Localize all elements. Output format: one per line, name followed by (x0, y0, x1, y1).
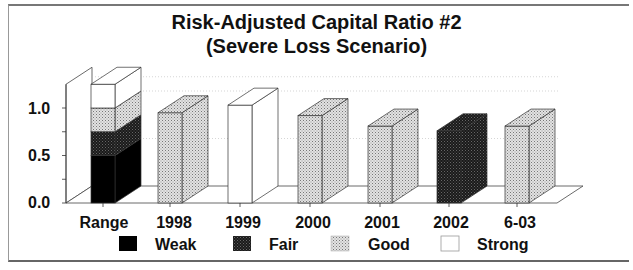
bar-front (228, 105, 252, 203)
x-label: 6-03 (504, 214, 536, 231)
bar-side (182, 96, 208, 203)
y-tick-label: 0.0 (28, 194, 50, 211)
chart-plot: 0.0 0.5 1.0 Range 1998 1999 2000 2001 20… (0, 0, 633, 270)
y-tick-label: 1.0 (28, 100, 50, 117)
y-axis: 0.0 0.5 1.0 (28, 100, 50, 211)
bar-front (91, 132, 115, 156)
x-axis-labels: Range 1998 1999 2000 2001 2002 6-03 (80, 214, 537, 231)
legend-swatch-fair (233, 236, 251, 251)
bar-front (298, 116, 322, 203)
legend: Weak Fair Good Strong (119, 236, 529, 253)
legend-label: Strong (477, 236, 529, 253)
bar-front (505, 126, 529, 203)
chart-bars (62, 67, 583, 207)
legend-label: Weak (155, 236, 197, 253)
bar-front (158, 113, 182, 203)
legend-swatch-good (331, 236, 349, 251)
x-label: 2001 (364, 214, 400, 231)
y-tick-label: 0.5 (28, 147, 50, 164)
x-label: 1998 (156, 214, 192, 231)
bar-front (91, 108, 115, 132)
legend-swatch-weak (119, 236, 137, 251)
legend-swatch-strong (441, 236, 459, 251)
bar-front (91, 156, 115, 204)
bar-front (91, 84, 115, 108)
x-label: Range (80, 214, 129, 231)
bar-front (368, 126, 392, 203)
bar-side (252, 88, 278, 203)
legend-label: Good (368, 236, 410, 253)
legend-label: Fair (269, 236, 298, 253)
x-label: 2002 (433, 214, 469, 231)
bar-side (322, 99, 348, 203)
bar-front (437, 131, 461, 203)
back-wall (66, 67, 92, 203)
x-label: 1999 (225, 214, 261, 231)
x-label: 2000 (295, 214, 331, 231)
